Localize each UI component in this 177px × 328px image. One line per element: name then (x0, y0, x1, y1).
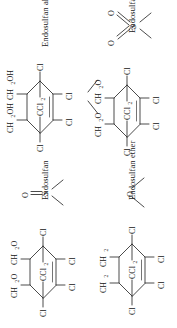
sulfur-label: S (129, 25, 138, 29)
structure-endosulfan-alcohol: CCl 2 Cl Cl Cl Cl (0, 0, 90, 165)
side-group-right-tail: OH (6, 70, 15, 82)
side-group-right: CH (99, 256, 108, 267)
side-group-right: CH (6, 89, 15, 100)
bridge-label: CCl (128, 265, 137, 279)
vinyl-cl-left: Cl (68, 283, 77, 291)
bridge-label: CCl (39, 267, 48, 281)
vinyl-cl-left: Cl (157, 281, 166, 289)
side-group-left-sub: 2 (14, 280, 20, 283)
vinyl-cl-right: Cl (157, 255, 166, 263)
bridge-sub: 2 (43, 263, 49, 266)
endosulfan-ether-oxygen-bridge: O (87, 166, 177, 222)
ether-oxygen-label: O (126, 191, 135, 197)
ring-cl-right: Cl (39, 228, 48, 236)
sulfinyl-oxygen: O (21, 192, 30, 198)
vinyl-cl-right: Cl (68, 257, 77, 265)
sulfonyl-oxygen-1: O (107, 40, 116, 46)
caption-endosulfan-alcohol: Endosulfan alcohol (40, 0, 50, 47)
side-group-left: CH (10, 287, 19, 298)
side-group-left-sub: 2 (103, 275, 109, 278)
endosulfan-sulfinyl-group: S O (0, 166, 90, 224)
sulfonyl-oxygen-2: O (107, 10, 116, 16)
ring-cl-left: Cl (128, 307, 137, 315)
endosulfan-sulfate-sulfonyl-group: S O O (87, 0, 177, 60)
side-group-right-sub: 2 (10, 82, 16, 85)
sulfur-label: S (41, 192, 50, 196)
side-group-right-sub: 2 (14, 247, 20, 250)
side-group-right-tail: O (10, 241, 19, 247)
side-group-right: CH (10, 254, 19, 265)
side-group-right-sub: 2 (103, 249, 109, 252)
side-group-left: CH (99, 282, 108, 293)
endosulfan-alcohol-drawing: CCl 2 Cl Cl Cl Cl (0, 55, 90, 159)
ring-cl-left: Cl (39, 309, 48, 317)
ring-cl-right: Cl (128, 226, 137, 234)
side-group-left-tail: O (10, 274, 19, 280)
bridge-sub: 2 (132, 261, 138, 264)
figure-canvas: CCl 2 Cl Cl Cl Cl (0, 0, 177, 328)
